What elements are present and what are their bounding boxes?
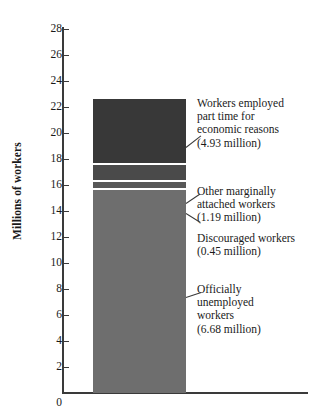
y-axis-tick-12 [62, 237, 69, 238]
bar-segment-part-time [93, 99, 186, 163]
y-axis-tick-8 [62, 289, 69, 290]
y-axis-tick-10 [62, 263, 69, 264]
y-axis-tick-label-0: 0 [36, 396, 62, 408]
bar-segment-unemployed [93, 190, 186, 393]
annotation-unemployed-line1: Officially [197, 283, 261, 296]
y-axis-tick-22 [62, 107, 69, 108]
y-axis-tick-label-22: 22 [36, 101, 62, 113]
bar-segment-discouraged [93, 182, 186, 188]
annotation-discouraged-line2: (0.45 million) [197, 245, 295, 258]
y-axis-tick-label-18: 18 [36, 153, 62, 165]
y-axis-tick-4 [62, 341, 69, 342]
annotation-marginally-attached-line2: attached workers [197, 198, 276, 211]
annotation-part-time-line1: Workers employed [197, 97, 284, 110]
y-axis-tick-label-16: 16 [36, 179, 62, 191]
annotation-discouraged-line1: Discouraged workers [197, 232, 295, 245]
annotation-unemployed-line4: (6.68 million) [197, 323, 261, 336]
y-axis-tick-24 [62, 81, 69, 82]
y-axis-tick-label-10: 10 [36, 257, 62, 269]
y-axis-tick-16 [62, 185, 69, 186]
y-axis-tick-label-26: 26 [36, 49, 62, 61]
stacked-bar [93, 99, 186, 393]
y-axis-tick-label-14: 14 [36, 205, 62, 217]
annotation-discouraged: Discouraged workers (0.45 million) [197, 232, 295, 258]
y-axis-tick-2 [62, 367, 69, 368]
y-axis-tick-28 [62, 29, 69, 30]
stacked-bar-chart: Millions of workers 28262422201816141210… [0, 0, 315, 418]
bar-segment-marginally-attached [93, 165, 186, 180]
annotation-unemployed: Officially unemployed workers (6.68 mill… [197, 283, 261, 336]
annotation-part-time: Workers employed part time for economic … [197, 97, 284, 150]
y-axis-tick-label-6: 6 [36, 309, 62, 321]
annotation-unemployed-line2: unemployed [197, 296, 261, 309]
y-axis-tick-14 [62, 211, 69, 212]
y-axis-tick-label-4: 4 [36, 335, 62, 347]
y-axis-tick-label-28: 28 [36, 23, 62, 35]
annotation-part-time-line2: part time for [197, 110, 284, 123]
y-axis-tick-label-2: 2 [36, 361, 62, 373]
annotation-part-time-line4: (4.93 million) [197, 137, 284, 150]
y-axis-tick-label-20: 20 [36, 127, 62, 139]
y-axis-tick-6 [62, 315, 69, 316]
annotation-part-time-line3: economic reasons [197, 123, 284, 136]
annotation-marginally-attached-line3: (1.19 million) [197, 211, 276, 224]
y-axis-tick-label-24: 24 [36, 75, 62, 87]
annotation-unemployed-line3: workers [197, 309, 261, 322]
y-axis-title: Millions of workers [11, 131, 23, 251]
y-axis-tick-20 [62, 133, 69, 134]
annotation-marginally-attached: Other marginally attached workers (1.19 … [197, 185, 276, 225]
y-axis-tick-label-12: 12 [36, 231, 62, 243]
y-axis-tick-label-8: 8 [36, 283, 62, 295]
y-axis-tick-18 [62, 159, 69, 160]
y-axis-tick-26 [62, 55, 69, 56]
annotation-marginally-attached-line1: Other marginally [197, 185, 276, 198]
